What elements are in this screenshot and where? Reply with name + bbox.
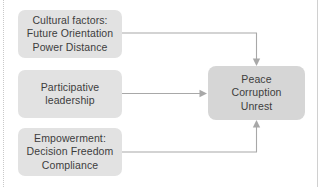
empowerment-line-3: Compliance	[42, 159, 98, 172]
participative-leadership-node: Participative leadership	[18, 70, 122, 118]
cultural-factors-line-3: Power Distance	[33, 41, 108, 54]
outcome-line-3: Unrest	[241, 100, 273, 113]
diagram-canvas: Cultural factors: Future Orientation Pow…	[0, 0, 326, 187]
participative-leadership-line-2: leadership	[45, 94, 94, 107]
arrowhead-down-icon	[253, 59, 260, 67]
cultural-factors-line-2: Future Orientation	[27, 27, 113, 40]
empowerment-node: Empowerment: Decision Freedom Compliance	[18, 128, 122, 176]
connector-cultural-to-outcome	[122, 33, 257, 61]
connector-empowerment-to-outcome	[122, 126, 257, 152]
outcome-line-2: Corruption	[231, 86, 281, 99]
cultural-factors-node: Cultural factors: Future Orientation Pow…	[18, 10, 122, 58]
cultural-factors-line-1: Cultural factors:	[32, 14, 107, 27]
arrowhead-right-icon	[200, 90, 208, 97]
empowerment-line-2: Decision Freedom	[27, 145, 114, 158]
participative-leadership-line-1: Participative	[41, 81, 100, 94]
outcome-line-1: Peace	[241, 73, 271, 86]
arrowhead-up-icon	[253, 120, 260, 128]
empowerment-line-1: Empowerment:	[34, 132, 106, 145]
outcome-node: Peace Corruption Unrest	[208, 66, 305, 120]
